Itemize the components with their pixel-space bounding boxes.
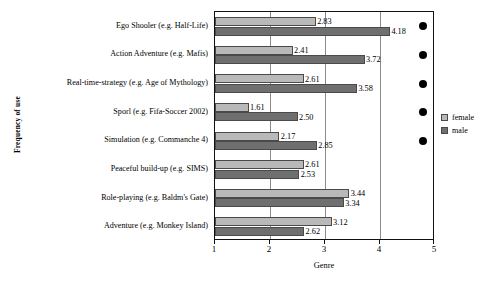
x-tick-label: 2 (258, 244, 280, 254)
bar-value-label: 2.85 (318, 141, 333, 150)
legend-item-male: male (441, 124, 497, 136)
bar-value-label: 3.12 (333, 218, 348, 227)
bar-female (215, 132, 279, 141)
significance-dot-icon (419, 51, 427, 59)
category-label: Ego Shooler (e.g. Half-Life) (8, 21, 208, 30)
bar-chart: Frequency of use Ego Shooler (e.g. Half-… (0, 0, 498, 283)
category-label: Adventure (e.g. Monkey Island) (8, 221, 208, 230)
category-label: Simulation (e.g. Commanche 4) (8, 135, 208, 144)
bar-value-label: 2.61 (305, 75, 320, 84)
bar-value-label: 2.83 (317, 17, 332, 26)
bar-female (215, 160, 304, 169)
bar-value-label: 2.53 (301, 170, 316, 179)
category-label-column: Ego Shooler (e.g. Half-Life)Action Adven… (8, 11, 211, 240)
plot-area: 2.834.182.413.722.613.581.612.502.172.85… (214, 11, 434, 240)
significance-dot-icon (419, 108, 427, 116)
x-tick-label: 3 (313, 244, 335, 254)
bar-value-label: 3.58 (358, 84, 373, 93)
bar-male (215, 55, 365, 64)
significance-dot-icon (419, 137, 427, 145)
bar-male (215, 227, 304, 236)
category-label: Sporl (e.g. Fifa-Soccer 2002) (8, 107, 208, 116)
category-label: Role-playing (e.g. Baldm's Gate) (8, 193, 208, 202)
category-label: Peaceful build-up (e.g. SIMS) (8, 164, 208, 173)
category-label: Real-time-strategy (e.g. Age of Mytholog… (8, 78, 208, 87)
significance-dot-icon (419, 80, 427, 88)
bar-female (215, 103, 249, 112)
legend-swatch-icon (441, 127, 448, 134)
legend-label: male (452, 126, 468, 135)
bar-female (215, 189, 349, 198)
bar-value-label: 2.41 (294, 46, 309, 55)
x-axis-title: Genre (214, 261, 434, 270)
bar-male (215, 27, 390, 36)
x-tick-label: 4 (368, 244, 390, 254)
legend: femalemale (441, 111, 497, 137)
bar-male (215, 112, 298, 121)
bar-value-label: 2.62 (306, 227, 321, 236)
bar-male (215, 141, 317, 150)
gridline-4 (380, 12, 381, 239)
bar-value-label: 2.50 (299, 113, 314, 122)
bar-male (215, 170, 299, 179)
bar-value-label: 1.61 (250, 103, 265, 112)
bar-female (215, 17, 316, 26)
significance-dot-icon (419, 22, 427, 30)
bar-female (215, 217, 332, 226)
legend-swatch-icon (441, 114, 448, 121)
category-label: Action Adventure (e.g. Mafis) (8, 49, 208, 58)
bar-male (215, 198, 344, 207)
bar-female (215, 74, 304, 83)
x-axis-ticks: 12345 (214, 240, 434, 256)
bar-value-label: 2.17 (281, 132, 296, 141)
x-tick-label: 5 (423, 244, 445, 254)
bar-female (215, 46, 293, 55)
x-tick-label: 1 (203, 244, 225, 254)
bar-male (215, 84, 357, 93)
legend-item-female: female (441, 111, 497, 123)
legend-label: female (452, 113, 474, 122)
bar-value-label: 2.61 (305, 160, 320, 169)
bar-value-label: 3.72 (366, 55, 381, 64)
bar-value-label: 3.44 (351, 189, 366, 198)
bar-value-label: 3.34 (345, 199, 360, 208)
bar-value-label: 4.18 (391, 27, 406, 36)
